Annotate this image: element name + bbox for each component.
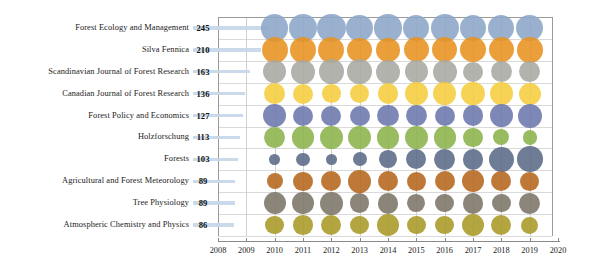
x-axis-tick xyxy=(275,238,276,242)
x-axis-tick xyxy=(416,238,417,242)
x-axis-tick xyxy=(530,238,531,242)
x-axis-tick xyxy=(473,238,474,242)
bubble-chart: Forest Ecology and ManagementSilva Fenni… xyxy=(0,0,590,271)
x-axis-tick-label: 2020 xyxy=(541,246,575,256)
x-axis-tick xyxy=(388,238,389,242)
x-axis-tick xyxy=(218,238,219,242)
x-axis-line xyxy=(218,241,560,242)
x-axis: 2008200920102011201220132014201520162017… xyxy=(0,0,590,271)
x-axis-tick xyxy=(501,238,502,242)
x-axis-tick xyxy=(558,238,559,242)
x-axis-tick xyxy=(331,238,332,242)
x-axis-tick xyxy=(360,238,361,242)
x-axis-tick xyxy=(445,238,446,242)
x-axis-tick xyxy=(303,238,304,242)
x-axis-tick xyxy=(246,238,247,242)
